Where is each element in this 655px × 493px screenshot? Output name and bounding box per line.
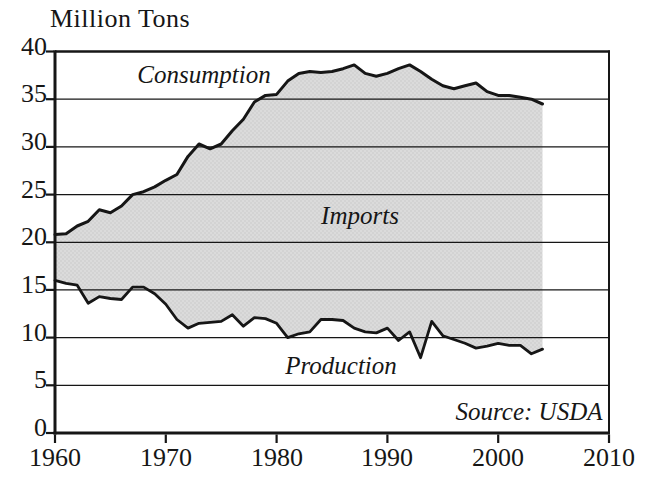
y-tick-label: 15 bbox=[0, 270, 47, 300]
usda-area-chart: Million Tons Consumption Imports Product… bbox=[0, 0, 655, 493]
source-note: Source: USDA bbox=[456, 398, 603, 426]
x-tick-label: 1960 bbox=[29, 443, 81, 473]
y-tick-label: 30 bbox=[0, 127, 47, 157]
y-tick-label: 25 bbox=[0, 175, 47, 205]
x-tick-label: 1970 bbox=[140, 443, 192, 473]
production-series-label: Production bbox=[285, 352, 397, 380]
y-tick-label: 40 bbox=[0, 32, 47, 62]
imports-band-area bbox=[55, 65, 543, 358]
y-tick-label: 5 bbox=[0, 365, 47, 395]
x-tick-label: 1990 bbox=[361, 443, 413, 473]
x-tick-label: 2000 bbox=[472, 443, 524, 473]
x-tick-label: 1980 bbox=[251, 443, 303, 473]
imports-band-label: Imports bbox=[321, 202, 399, 230]
y-tick-label: 20 bbox=[0, 222, 47, 252]
consumption-series-label: Consumption bbox=[137, 61, 270, 89]
y-tick-label: 0 bbox=[0, 413, 47, 443]
y-tick-label: 35 bbox=[0, 79, 47, 109]
y-tick-label: 10 bbox=[0, 318, 47, 348]
x-tick-label: 2010 bbox=[583, 443, 635, 473]
